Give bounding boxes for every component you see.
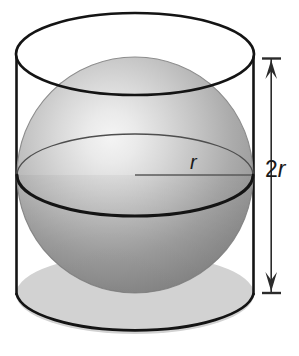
geometry-figure-sphere-in-cylinder: 2r r <box>0 0 299 356</box>
height-dimension-variable: r <box>278 156 286 182</box>
height-dimension-label: 2r <box>265 158 285 181</box>
sphere-cylinder-drawing <box>0 0 299 356</box>
height-dimension-number: 2 <box>265 156 278 182</box>
radius-label: r <box>190 152 197 172</box>
